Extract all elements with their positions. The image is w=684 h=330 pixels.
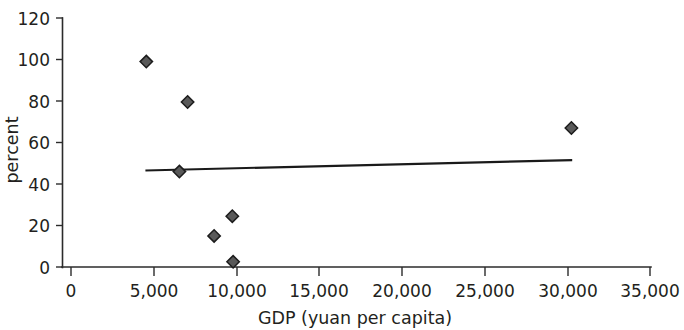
scatter-chart-figure: 120 100 80 60 40 20 0 0 5,000 10,000 15,… [0,0,684,330]
y-tick-label: 20 [28,216,50,236]
x-tick-label: 5,000 [130,281,179,301]
data-point-marker [181,96,193,108]
x-tick-label: 30,000 [538,281,597,301]
x-tick-label: 10,000 [207,281,266,301]
y-tick-label: 100 [18,50,50,70]
data-point-marker [140,55,152,67]
y-tick-label: 40 [28,175,50,195]
x-axis-ticks [71,267,650,276]
data-point-marker [565,122,577,134]
data-point-marker [208,230,220,242]
y-tick-label: 0 [39,258,50,278]
data-point-marker [227,256,239,268]
x-tick-label: 15,000 [289,281,348,301]
trend-line-group [145,160,572,170]
x-tick-label: 25,000 [455,281,514,301]
y-tick-label: 60 [28,133,50,153]
y-tick-labels: 120 100 80 60 40 20 0 [18,9,50,278]
x-tick-label: 20,000 [372,281,431,301]
y-tick-label: 120 [18,9,50,29]
x-tick-labels: 0 5,000 10,000 15,000 20,000 25,000 30,0… [66,281,680,301]
x-tick-label: 0 [66,281,77,301]
y-tick-label: 80 [28,92,50,112]
trend-line [145,160,572,170]
x-tick-label: 35,000 [620,281,679,301]
y-axis-title: percent [2,116,22,183]
plot-canvas: 120 100 80 60 40 20 0 0 5,000 10,000 15,… [0,0,684,330]
data-point-marker [226,210,238,222]
data-point-marker [173,165,185,177]
x-axis-title: GDP (yuan per capita) [258,308,452,328]
